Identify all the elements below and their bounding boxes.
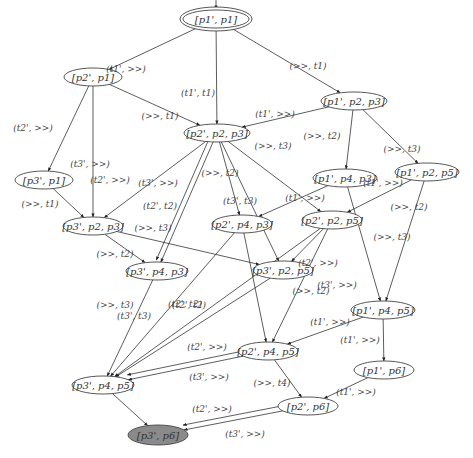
nodes-layer: [p1', p1][p2', p1][p1', p2, p3][p2', p2,… <box>15 7 459 445</box>
edge-n15-n17 <box>112 394 147 426</box>
edge-label: (t2', >>) <box>192 404 232 414</box>
edge-label: (t3', t3) <box>117 311 151 321</box>
edge-label: (t2', >>) <box>90 175 130 185</box>
edge-label: (t1', >>) <box>310 317 350 327</box>
edge-label: (>>, t4) <box>253 378 291 388</box>
edge-n16-n17 <box>184 411 283 430</box>
node-label: [p3', p4, p5] <box>72 380 134 391</box>
edge-label: (t1', >>) <box>285 193 325 203</box>
edge-n7-n11 <box>117 231 260 264</box>
state-node: [p2', p4, p5] <box>237 342 299 360</box>
node-label: [p2', p4, p5] <box>237 346 299 357</box>
state-graph: [p1', p1][p2', p1][p1', p2, p3][p2', p2,… <box>0 0 473 458</box>
state-node: [p2', p6] <box>278 397 338 415</box>
state-node: [p3', p1] <box>15 171 73 189</box>
node-label: [p3', p4, p3] <box>126 266 188 277</box>
state-node: [p1', p2, p3] <box>321 92 387 110</box>
edge-label: (t2', t2) <box>143 201 177 211</box>
edge-label: (t1', t1) <box>181 88 215 98</box>
node-label: [p1', p1] <box>195 14 238 25</box>
edge-label: (>>, t3) <box>254 141 292 151</box>
edge-label: (t1', >>) <box>255 109 295 119</box>
edge-label: (>>, t3) <box>373 232 411 242</box>
node-label: [p1', p6] <box>363 365 406 376</box>
edge-n10-n15 <box>107 280 153 376</box>
edge-n9-n11 <box>291 229 323 262</box>
edge-label: (>>, t2) <box>390 202 428 212</box>
edge-label: (t2', >>) <box>187 342 227 352</box>
node-label: [p3', p1] <box>23 175 66 186</box>
edge-label: (>>, t3) <box>96 300 134 310</box>
node-label: [p1', p4, p5] <box>352 305 414 316</box>
node-label: [p2', p6] <box>287 401 330 412</box>
state-node: [p2', p4, p3] <box>211 215 273 233</box>
node-label: [p2', p4, p3] <box>211 219 273 230</box>
edge-label: (>>, t3) <box>134 223 172 233</box>
edge-n0-n3 <box>216 28 217 124</box>
edge-label: (t1', >>) <box>336 387 376 397</box>
node-label: [p1', p2, p3] <box>323 96 385 107</box>
edge-label: (t3', >>) <box>189 372 229 382</box>
node-label: [p3', p6] <box>137 430 180 441</box>
edge-label: (>>, t2) <box>292 286 330 296</box>
edge-label: (t3', t3) <box>223 196 257 206</box>
node-label: [p2', p2, p5] <box>301 215 363 226</box>
node-label: [p1', p2, p5] <box>396 167 458 178</box>
node-label: [p3', p2, p3] <box>62 221 124 232</box>
edge-n11-n15 <box>116 278 270 377</box>
edge-label: (t1', >>) <box>106 64 146 74</box>
state-node: [p3', p4, p5] <box>72 376 134 394</box>
initial-state-node: [p1', p1] <box>180 7 252 31</box>
state-node: [p1', p4, p5] <box>351 301 415 319</box>
edge-label: (>>, t2) <box>303 131 341 141</box>
edge-label: (t2', >>) <box>298 258 338 268</box>
edge-label: (>>, t2) <box>201 168 239 178</box>
edge-label: (t1', >>) <box>363 178 403 188</box>
edge-label: (>>, t1) <box>21 199 59 209</box>
edge-label: (t3', >>) <box>70 159 110 169</box>
state-node: [p3', p4, p3] <box>126 262 188 280</box>
state-node: [p3', p2, p3] <box>62 217 124 235</box>
final-state-node: [p3', p6] <box>128 425 188 445</box>
edge-label: (>>, t2) <box>96 249 134 259</box>
state-node: [p1', p2, p5] <box>395 163 459 181</box>
edge-label: (>>, t3) <box>383 144 421 154</box>
edge-n12-n14 <box>383 319 384 361</box>
edge-label: (t3', >>) <box>225 429 265 439</box>
edge-label: (>>, t1) <box>289 61 327 71</box>
state-node: [p1', p6] <box>354 361 414 379</box>
node-label: [p2', p2, p3] <box>186 128 248 139</box>
edge-label: (t2', t2) <box>168 299 202 309</box>
edge-label: (t1', >>) <box>340 335 380 345</box>
edge-label: (t2', >>) <box>13 123 53 133</box>
edge-n2-n6 <box>363 110 418 164</box>
state-node: [p2', p2, p5] <box>301 211 363 229</box>
state-node: [p2', p2, p3] <box>184 124 250 142</box>
edge-label: (t3', >>) <box>138 178 178 188</box>
edge-label: (>>, t1) <box>141 111 179 121</box>
edge-n2-n5 <box>346 110 353 169</box>
